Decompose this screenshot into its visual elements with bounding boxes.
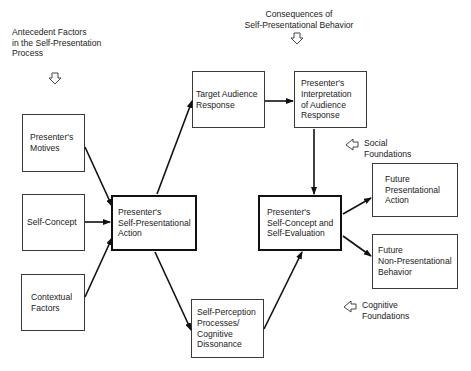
cognitive-left-arrow-icon [344,301,356,312]
diagram-connectors [0,0,471,371]
edge-action-to-target-response [157,101,192,194]
edge-action-to-self-perception [155,252,191,330]
edge-self-evaluation-to-future-behavior [343,236,371,256]
edge-contextual-to-action [85,238,112,297]
social-left-arrow-icon [346,139,358,150]
edge-self-perception-to-self-evaluation [264,252,302,329]
antecedent-down-arrow-icon [49,73,61,84]
edge-motives-to-action [85,147,112,206]
edge-self-evaluation-to-future-action [343,198,371,214]
consequences-down-arrow-icon [291,33,303,44]
